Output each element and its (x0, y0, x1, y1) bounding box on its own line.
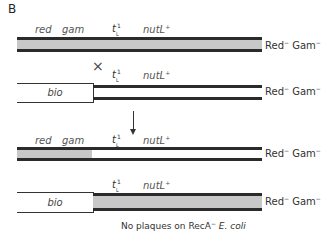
dna-strand-bottom (93, 208, 262, 211)
gene-label-tl1: t 1 L (112, 180, 116, 190)
dna-gray-fill-partial (17, 150, 92, 158)
nutl-text: nutL (143, 24, 165, 35)
phenotype-label: Red− Gam− (265, 87, 321, 97)
dna-strand-bottom (17, 49, 262, 52)
gene-label-gam: gam (62, 136, 84, 146)
bio-label: bio (17, 193, 93, 212)
gene-label-nutl: nutL+ (143, 71, 170, 81)
gene-label-tl1: t 1 L (112, 135, 116, 145)
gene-label-red: red (35, 136, 52, 146)
gene-label-nutl: nutL+ (143, 181, 170, 191)
figure-caption: No plaques on RecA− E. coli (121, 221, 246, 231)
phenotype-label: Red− Gam− (265, 149, 321, 159)
arrow-down-icon (130, 129, 136, 135)
phenotype-label: Red− Gam− (265, 41, 321, 51)
bio-region-box: bio (17, 192, 94, 213)
gene-label-nutl: nutL+ (143, 25, 170, 35)
panel-label: B (8, 2, 16, 16)
dna-strand-bottom (93, 97, 262, 100)
gene-label-gam: gam (62, 25, 84, 35)
gene-label-nutl: nutL+ (143, 136, 170, 146)
gene-label-tl1: t 1 L (112, 70, 116, 80)
dna-gray-fill (17, 40, 262, 49)
tl-sub: L (116, 75, 119, 85)
dna-strand-top (93, 85, 262, 88)
bio-region-box: bio (17, 83, 94, 103)
dna-strand-bottom (17, 158, 262, 161)
gene-label-tl1: t 1 L (112, 24, 116, 34)
gene-label-red: red (35, 25, 52, 35)
nutl-sup: + (165, 23, 170, 30)
crossover-icon: × (92, 59, 104, 73)
arrow-shaft (133, 111, 134, 129)
phenotype-label: Red− Gam− (265, 197, 321, 207)
dna-gray-fill (93, 196, 262, 208)
bio-label: bio (17, 84, 93, 102)
